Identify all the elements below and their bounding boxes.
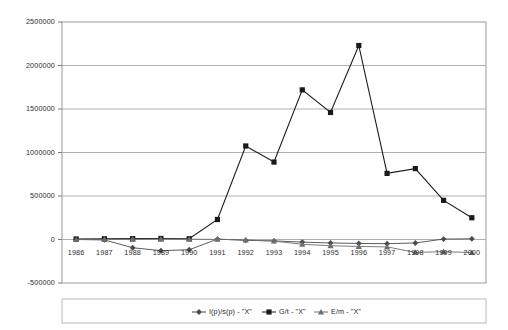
data-point-marker: [215, 217, 220, 222]
data-point-marker: [328, 110, 333, 115]
x-axis-tick-label: 1992: [232, 249, 260, 257]
data-point-marker: [266, 309, 271, 314]
legend-entry-label: I(p)/s(p) - "X": [209, 307, 252, 316]
legend-entry-label: G/t - "X": [279, 307, 306, 316]
chart-canvas: [0, 0, 508, 330]
y-axis-tick-label: 500000: [0, 192, 55, 200]
data-point-marker: [300, 87, 305, 92]
y-axis-tick-label: 0: [0, 236, 55, 244]
data-point-marker: [469, 215, 474, 220]
data-point-marker: [413, 166, 418, 171]
x-axis-tick-label: 1986: [62, 249, 90, 257]
data-point-marker: [243, 143, 248, 148]
x-axis-tick-label: 1996: [345, 249, 373, 257]
data-point-marker: [271, 159, 276, 164]
x-axis-tick-label: 1997: [373, 249, 401, 257]
y-axis-tick-label: 1500000: [0, 105, 55, 113]
x-axis-tick-label: 1988: [119, 249, 147, 257]
x-axis-tick-label: 1998: [401, 249, 429, 257]
line-chart: 25000002000000150000010000005000000-5000…: [0, 0, 508, 330]
y-axis-tick-label: 2500000: [0, 18, 55, 26]
x-axis-tick-label: 1994: [288, 249, 316, 257]
y-axis-tick-label: 2000000: [0, 62, 55, 70]
x-axis-tick-label: 1989: [147, 249, 175, 257]
data-point-marker: [441, 198, 446, 203]
x-axis-tick-label: 1991: [203, 249, 231, 257]
x-axis-tick-label: 1995: [316, 249, 344, 257]
y-axis-tick-label: -500000: [0, 279, 55, 287]
legend-box: [62, 299, 486, 323]
data-point-marker: [384, 171, 389, 176]
data-point-marker: [356, 43, 361, 48]
x-axis-tick-label: 1987: [90, 249, 118, 257]
x-axis-tick-label: 2000: [458, 249, 486, 257]
legend-entry-label: E/m - "X": [331, 307, 361, 316]
y-axis-tick-label: 1000000: [0, 149, 55, 157]
data-point-marker: [196, 309, 202, 315]
legend-border: [62, 299, 486, 323]
x-axis-tick-label: 1999: [429, 249, 457, 257]
x-axis-tick-label: 1993: [260, 249, 288, 257]
x-axis-tick-label: 1990: [175, 249, 203, 257]
